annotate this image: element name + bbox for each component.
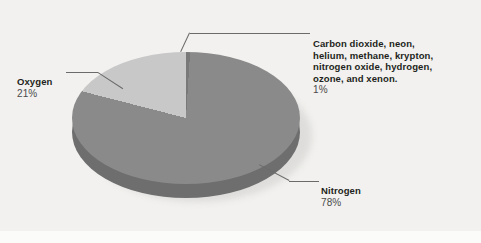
slice-label-nitrogen-percent: 78% bbox=[321, 197, 421, 209]
leader-line-trace-gases-horizontal bbox=[190, 33, 310, 34]
leader-line-nitrogen-horizontal bbox=[289, 181, 319, 182]
slice-label-nitrogen: Nitrogen 78% bbox=[321, 174, 421, 220]
pie-chart-graphic bbox=[72, 52, 300, 212]
slice-label-oxygen-text: Oxygen bbox=[17, 76, 52, 87]
slice-label-trace-gases-percent: 1% bbox=[313, 84, 478, 96]
pie-top-face bbox=[72, 52, 300, 184]
slice-label-oxygen-percent: 21% bbox=[17, 88, 79, 100]
slice-label-trace-gases: Carbon dioxide, neon, helium, methane, k… bbox=[313, 27, 478, 107]
slice-label-oxygen: Oxygen 21% bbox=[17, 65, 79, 111]
slice-label-nitrogen-text: Nitrogen bbox=[321, 185, 361, 196]
pie-chart-figure: Carbon dioxide, neon, helium, methane, k… bbox=[0, 0, 481, 243]
slice-label-trace-gases-text: Carbon dioxide, neon, helium, methane, k… bbox=[313, 38, 433, 83]
page-margin-strip bbox=[0, 231, 481, 243]
